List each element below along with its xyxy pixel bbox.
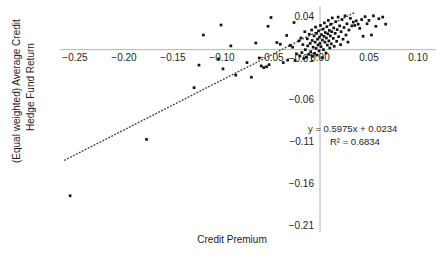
data-point — [299, 55, 302, 58]
data-point — [322, 28, 325, 31]
data-point — [381, 16, 384, 19]
data-point — [325, 52, 328, 55]
data-point — [246, 61, 249, 64]
data-point — [316, 54, 319, 57]
data-point — [302, 57, 305, 60]
data-point — [298, 40, 301, 43]
data-point — [217, 57, 220, 60]
data-point — [322, 48, 325, 51]
data-point — [375, 25, 378, 28]
data-point — [320, 45, 323, 48]
data-point — [308, 33, 311, 36]
y-tick-label: −0.01 — [289, 53, 315, 64]
data-point — [341, 18, 344, 21]
data-point — [333, 45, 336, 48]
data-point — [336, 28, 339, 31]
data-point — [234, 74, 237, 77]
data-point — [352, 21, 355, 24]
data-point — [311, 39, 314, 42]
data-point — [360, 18, 363, 21]
data-point — [294, 59, 297, 62]
data-point — [262, 66, 265, 69]
data-point — [309, 42, 312, 45]
data-point — [324, 41, 327, 44]
data-point — [289, 44, 292, 47]
y-tick-label: −0.06 — [289, 94, 315, 105]
y-tick-label: −0.16 — [289, 178, 315, 189]
data-point — [198, 64, 201, 67]
data-point — [320, 33, 323, 36]
data-point — [250, 76, 253, 79]
data-point — [355, 19, 358, 22]
data-point — [313, 35, 316, 38]
data-point — [329, 23, 332, 26]
data-point — [268, 63, 271, 66]
data-point — [321, 56, 324, 59]
data-point — [346, 22, 349, 25]
data-point — [318, 50, 321, 53]
x-tick-label: 0.05 — [359, 52, 379, 63]
data-point — [286, 59, 289, 62]
data-point — [319, 42, 322, 45]
data-point — [311, 55, 314, 58]
data-point — [270, 16, 273, 19]
data-point — [327, 19, 330, 22]
data-point — [309, 50, 312, 53]
data-point — [229, 45, 232, 48]
data-point — [342, 38, 345, 41]
data-point — [364, 15, 367, 18]
x-tick-label: 0.10 — [408, 52, 428, 63]
data-point — [358, 27, 361, 30]
data-point — [349, 17, 352, 20]
data-point — [353, 24, 356, 27]
data-point — [330, 30, 333, 33]
data-point — [145, 138, 148, 141]
data-point — [306, 37, 309, 40]
data-point — [202, 34, 205, 37]
data-point — [301, 51, 304, 54]
data-point — [313, 52, 316, 55]
data-point — [328, 47, 331, 50]
data-point — [220, 24, 223, 27]
data-point — [69, 194, 72, 197]
data-point — [276, 41, 279, 44]
data-point — [338, 25, 341, 28]
data-point — [285, 34, 288, 37]
data-point — [305, 56, 308, 59]
data-point — [326, 44, 329, 47]
data-point — [254, 42, 257, 45]
data-point — [319, 24, 322, 27]
data-point — [332, 37, 335, 40]
data-point — [265, 65, 268, 68]
data-point — [325, 37, 328, 40]
data-point — [327, 40, 330, 43]
data-point — [344, 14, 347, 17]
chart-canvas: −0.25−0.20−0.15−0.10−0.050.000.050.100.0… — [0, 0, 446, 263]
data-point — [334, 32, 337, 35]
data-point — [291, 46, 294, 49]
data-point — [347, 41, 350, 44]
data-point — [279, 43, 282, 46]
data-point — [321, 39, 324, 42]
y-tick-label: −0.11 — [289, 136, 314, 147]
x-tick-label: −0.25 — [62, 52, 88, 63]
data-point — [377, 17, 380, 20]
data-point — [260, 65, 263, 68]
data-point — [343, 26, 346, 29]
data-point — [330, 42, 333, 45]
data-point — [332, 27, 335, 30]
data-point — [293, 21, 296, 24]
data-point — [326, 25, 329, 28]
data-point — [329, 35, 332, 38]
data-point — [310, 29, 313, 32]
data-point — [340, 30, 343, 33]
data-point — [357, 23, 360, 26]
data-point — [323, 35, 326, 38]
data-point — [384, 23, 387, 26]
data-point — [303, 30, 306, 33]
data-point — [326, 32, 329, 35]
data-point — [372, 14, 375, 17]
x-tick-label: −0.20 — [111, 52, 137, 63]
data-point — [317, 30, 320, 33]
data-point — [348, 29, 351, 32]
